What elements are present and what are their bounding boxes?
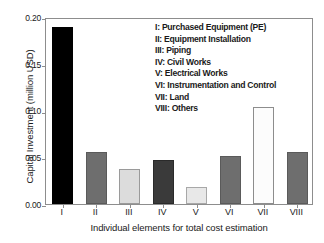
x-tick-label-ii: II [79, 207, 113, 218]
y-tick-label: 0.00 [15, 201, 41, 210]
x-tick-label-i: I [45, 207, 79, 218]
y-tick-mark [42, 159, 46, 160]
x-tick-label-v: V [179, 207, 213, 218]
bar-v [186, 187, 207, 204]
legend: I: Purchased Equipment (PE)II: Equipment… [155, 22, 307, 115]
bar-viii [287, 152, 308, 204]
x-tick-label-vi: VI [213, 207, 247, 218]
x-tick-label-viii: VIII [280, 207, 314, 218]
bar-vii [253, 107, 274, 204]
y-tick-mark [42, 66, 46, 67]
bar-iii [119, 169, 140, 204]
legend-entry: I: Purchased Equipment (PE) [155, 22, 307, 34]
bar-chart-figure: Capital Investment (million USD) 0.000.0… [0, 0, 324, 243]
y-tick-label: 0.10 [15, 107, 41, 116]
legend-entry: V: Electrical Works [155, 68, 307, 80]
y-tick-label: 0.05 [15, 154, 41, 163]
legend-entry: III: Piping [155, 45, 307, 57]
legend-entry: IV: Civil Works [155, 57, 307, 69]
y-axis-tick-labels: 0.000.050.100.150.20 [13, 0, 41, 243]
legend-entry: VII: Land [155, 92, 307, 104]
y-tick-label: 0.15 [15, 61, 41, 70]
y-tick-label: 0.20 [15, 14, 41, 23]
x-tick-label-iv: IV [146, 207, 180, 218]
bar-iv [153, 160, 174, 204]
y-tick-mark [42, 113, 46, 114]
y-tick-mark [42, 19, 46, 20]
x-tick-label-vii: VII [246, 207, 280, 218]
legend-entry: VI: Instrumentation and Control [155, 80, 307, 92]
legend-entry: II: Equipment Installation [155, 34, 307, 46]
bar-vi [220, 156, 241, 204]
bar-ii [86, 152, 107, 204]
bar-i [52, 27, 73, 204]
legend-entry: VIII: Others [155, 103, 307, 115]
x-axis-title: Individual elements for total cost estim… [45, 222, 313, 233]
x-axis-tick-labels: IIIIIIIVVVIVIIVIII [45, 207, 313, 221]
x-tick-label-iii: III [112, 207, 146, 218]
